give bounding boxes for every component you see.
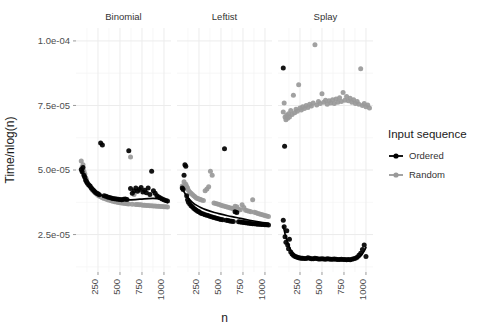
data-point	[81, 165, 86, 170]
y-tick-label: 1.0e-04	[38, 35, 70, 46]
x-axis-title: n	[221, 311, 228, 325]
data-point	[341, 90, 346, 95]
data-point	[206, 184, 211, 189]
panel-background-splay	[278, 28, 373, 272]
data-point	[296, 82, 301, 87]
data-point	[128, 155, 133, 160]
legend-item-random[interactable]: Random	[389, 169, 445, 180]
legend-item-ordered[interactable]: Ordered	[389, 150, 444, 161]
data-point	[291, 93, 296, 98]
panel-background-binomial	[76, 28, 171, 272]
x-tick-label: 250	[190, 279, 201, 295]
data-point	[100, 142, 105, 147]
data-point	[146, 186, 151, 191]
data-point	[149, 169, 154, 174]
data-point	[210, 173, 215, 178]
x-tick-label: 1000	[155, 279, 166, 300]
x-tick-label: 750	[234, 279, 245, 295]
data-point	[201, 198, 206, 203]
y-tick-label: 2.5e-05	[38, 229, 70, 240]
legend-label-ordered: Ordered	[409, 150, 444, 161]
facet-strip-label-splay: Splay	[314, 11, 338, 22]
data-point	[182, 173, 187, 178]
data-point	[363, 254, 368, 259]
data-point	[147, 192, 152, 197]
data-point	[165, 204, 170, 209]
y-tick-label: 5.0e-05	[38, 164, 70, 175]
data-point	[281, 66, 286, 71]
data-point	[183, 164, 188, 169]
chart-root: Binomial2505007501000Leftist250500750100…	[0, 0, 493, 331]
x-tick-label: 500	[212, 279, 223, 295]
x-tick-label: 750	[133, 279, 144, 295]
data-point	[234, 210, 239, 215]
data-point	[282, 100, 287, 105]
x-tick-label: 500	[313, 279, 324, 295]
x-tick-label: 250	[291, 279, 302, 295]
data-point	[358, 66, 363, 71]
data-point	[231, 219, 236, 224]
data-point	[222, 146, 227, 151]
facet-strip-label-binomial: Binomial	[105, 11, 141, 22]
faceted-scatter-chart: Binomial2505007501000Leftist250500750100…	[0, 0, 493, 331]
data-point	[312, 42, 317, 47]
data-point	[367, 106, 372, 111]
legend-title: Input sequence	[388, 128, 467, 140]
data-point	[250, 197, 255, 202]
y-tick-label: 7.5e-05	[38, 100, 70, 111]
data-point	[266, 214, 271, 219]
x-tick-label: 1000	[357, 279, 368, 300]
data-point	[126, 148, 131, 153]
x-tick-label: 500	[111, 279, 122, 295]
data-point	[281, 218, 286, 223]
x-tick-label: 250	[89, 279, 100, 295]
facet-strip-label-leftist: Leftist	[212, 11, 238, 22]
legend-label-random: Random	[409, 169, 445, 180]
data-point	[282, 144, 287, 149]
y-axis-title: Time/nlog(n)	[3, 117, 17, 184]
legend-key-point	[393, 153, 398, 158]
x-tick-label: 750	[335, 279, 346, 295]
data-point	[319, 91, 324, 96]
legend-key-point	[393, 172, 398, 177]
x-tick-label: 1000	[256, 279, 267, 300]
